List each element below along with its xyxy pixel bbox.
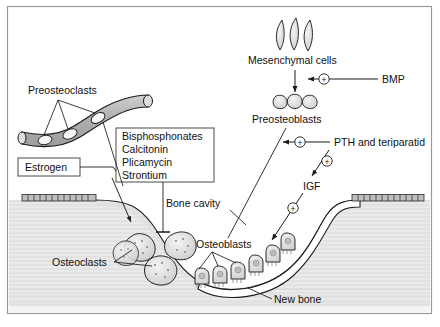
label-pth-teriparatid: PTH and teriparatid (334, 136, 425, 148)
bone-lining-cells-right (352, 195, 424, 202)
estrogen-label: Estrogen (25, 161, 67, 173)
drug-item-2: Plicamycin (122, 156, 172, 168)
bone-lining-cells-left (22, 195, 96, 202)
osteoblast-stimulation-plus-sign: + (288, 203, 298, 214)
drug-box[interactable]: Bisphosphonates Calcitonin Plicamycin St… (116, 128, 214, 182)
osteoclast-cell (113, 241, 138, 266)
bone-remodeling-diagram: Preosteoclasts Estrogen Bisphosphonates … (0, 0, 440, 327)
preosteoblast-cell (273, 95, 287, 108)
pth-plus-sign: + (295, 137, 305, 148)
label-bone-cavity: Bone cavity (166, 197, 221, 209)
label-osteoclasts: Osteoclasts (52, 256, 107, 268)
estrogen-box[interactable]: Estrogen (18, 158, 80, 176)
drug-item-1: Calcitonin (122, 143, 168, 155)
pth-plus-glyph: + (298, 138, 303, 148)
drug-item-3: Strontium (122, 169, 167, 181)
label-preosteoblasts: Preosteoblasts (252, 113, 321, 125)
bmp-plus-glyph: + (322, 75, 327, 85)
osteoblast-cell (195, 268, 209, 284)
osteoblast-cell (281, 233, 295, 250)
osteoblast-cell (231, 262, 245, 279)
figure-canvas: Preosteoclasts Estrogen Bisphosphonates … (0, 0, 440, 327)
label-osteoblasts: Osteoblasts (196, 238, 251, 250)
osteoblast-plus-glyph: + (291, 204, 296, 214)
label-bmp: BMP (382, 73, 405, 85)
preosteoblast-cells (273, 94, 317, 108)
preosteoblast-cell (302, 95, 317, 108)
preosteoblast-cell (287, 94, 302, 108)
label-igf: IGF (303, 180, 321, 192)
osteoblast-cell (213, 266, 227, 283)
osteoblast-cell (249, 255, 263, 272)
osteoclast-cell (165, 232, 197, 260)
label-preosteoclasts: Preosteoclasts (28, 84, 97, 96)
bmp-plus-sign: + (319, 74, 329, 85)
igf-induction-plus-sign: + (322, 156, 332, 167)
osteoclast-cell (145, 256, 177, 285)
osteoblast-cell (266, 245, 280, 262)
label-mesenchymal-cells: Mesenchymal cells (248, 54, 337, 66)
label-new-bone: New bone (274, 293, 321, 305)
igf-plus-glyph: + (325, 157, 330, 167)
drug-item-0: Bisphosphonates (122, 130, 203, 142)
